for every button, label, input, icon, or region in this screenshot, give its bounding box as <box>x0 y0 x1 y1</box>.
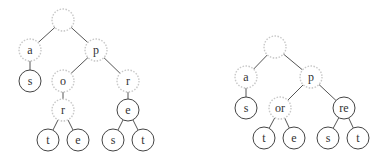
tree-edge <box>104 58 120 74</box>
node-label: or <box>275 101 285 115</box>
node-label: s <box>326 131 331 145</box>
tree-node-a: a <box>19 39 41 61</box>
tree-node-p: p <box>300 66 322 88</box>
node-label: r <box>126 74 130 88</box>
radix-tree-nodes: apsorretest <box>235 36 369 149</box>
tree-node-re: re <box>333 97 355 119</box>
tree-edge <box>118 120 123 130</box>
tree-edge <box>285 118 290 128</box>
tree-node-r: r <box>52 99 74 121</box>
tree-node-t: t <box>132 129 154 151</box>
nodes-layer: apsorretestapsorretest <box>19 9 369 151</box>
tree-node-r: r <box>117 70 139 92</box>
tree-node-s: s <box>317 127 339 149</box>
node-label: e <box>291 131 296 145</box>
tree-node-o: o <box>52 70 74 92</box>
node-label: s <box>28 74 33 88</box>
tree-node-p: p <box>85 39 107 61</box>
node-label: e <box>125 103 130 117</box>
tree-edge <box>38 27 55 42</box>
trie-nodes: apsorretest <box>19 9 154 151</box>
tree-edge <box>333 118 339 129</box>
tree-edge <box>288 85 303 100</box>
tree-node-or: or <box>269 97 291 119</box>
tree-node-s: s <box>102 129 124 151</box>
tree-node-a: a <box>235 66 257 88</box>
tree-edge <box>254 55 268 69</box>
tree-node-s: s <box>235 97 257 119</box>
tree-edge <box>283 54 302 70</box>
tree-edge <box>71 27 88 42</box>
node-label: a <box>27 43 33 57</box>
tree-edge <box>319 85 336 101</box>
tree-node-t: t <box>347 127 369 149</box>
tree-node-s: s <box>19 70 41 92</box>
node-label: p <box>308 70 314 84</box>
tree-edge <box>71 58 88 74</box>
tree-edge <box>68 120 73 130</box>
node-label: s <box>244 101 249 115</box>
node-label: e <box>75 133 80 147</box>
tree-node-root <box>52 9 74 31</box>
tree-node-t: t <box>37 129 59 151</box>
node-label: r <box>61 103 65 117</box>
tree-node-e: e <box>117 99 139 121</box>
node-label: p <box>93 43 99 57</box>
tree-edge <box>269 118 275 129</box>
tree-edge <box>349 118 354 128</box>
tree-node-e: e <box>67 129 89 151</box>
node-label: o <box>60 74 66 88</box>
tree-node-t: t <box>253 127 275 149</box>
trie-diagram-canvas: apsorretestapsorretest <box>0 0 391 162</box>
tree-node-e: e <box>283 127 305 149</box>
internal-node-circle <box>52 9 74 31</box>
tree-node-root <box>264 36 286 58</box>
node-label: a <box>243 70 249 84</box>
node-label: s <box>111 133 116 147</box>
internal-node-circle <box>264 36 286 58</box>
tree-edge <box>53 120 58 130</box>
node-label: re <box>339 101 348 115</box>
tree-edge <box>133 120 138 130</box>
